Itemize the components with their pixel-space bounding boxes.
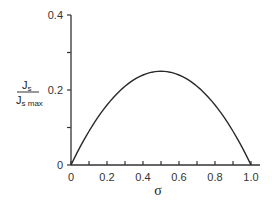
x-tick-label: 0.2 (99, 171, 114, 183)
y-tick-label: 0.2 (48, 84, 63, 96)
y-ticks: 00.20.4 (48, 9, 71, 171)
y-tick-label: 0.4 (48, 9, 63, 21)
y-tick-label: 0 (57, 159, 63, 171)
x-tick-label: 0.4 (135, 171, 150, 183)
x-ticks: 00.20.40.60.81.0 (68, 161, 259, 183)
x-tick-label: 0.6 (171, 171, 186, 183)
svg-text:Js max: Js max (16, 94, 43, 108)
chart: 00.20.4 00.20.40.60.81.0 Js Js max σ (0, 0, 272, 209)
x-axis-label: σ (154, 183, 162, 198)
data-curve (71, 71, 251, 165)
x-tick-label: 0.8 (207, 171, 222, 183)
y-axis-label: Js Js max (16, 79, 43, 108)
svg-text:Js: Js (22, 79, 32, 93)
x-tick-label: 0 (68, 171, 74, 183)
x-tick-label: 1.0 (243, 171, 258, 183)
